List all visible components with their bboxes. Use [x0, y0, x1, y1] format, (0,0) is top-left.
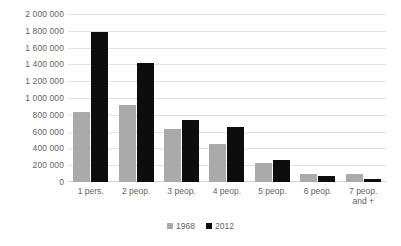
bar-group: [295, 14, 340, 182]
legend-item-2012[interactable]: 2012: [206, 222, 234, 231]
bar-1968: [300, 174, 317, 182]
bar-group: [341, 14, 386, 182]
bar-2012: [318, 176, 335, 182]
y-axis-tick-label: 0: [59, 178, 64, 187]
bar-2012: [273, 160, 290, 182]
plot-area: [68, 14, 386, 182]
bar-2012: [227, 127, 244, 182]
y-axis-tick-label: 1 200 000: [25, 77, 64, 86]
legend-swatch-icon: [167, 223, 173, 229]
bar-group: [204, 14, 249, 182]
x-axis-tick-label: 1 pers.: [68, 186, 113, 206]
x-axis-labels: 1 pers.2 peop.3 peop.4 peop.5 peop.6 peo…: [68, 186, 386, 206]
bar-1968: [255, 163, 272, 182]
y-axis-tick-label: 1 000 000: [25, 94, 64, 103]
y-axis-tick-label: 200 000: [33, 161, 64, 170]
bar-1968: [119, 105, 136, 182]
x-axis-tick-label: 6 peop.: [295, 186, 340, 206]
x-axis-tick-label: 3 peop.: [159, 186, 204, 206]
bar-group: [113, 14, 158, 182]
bar-groups: [68, 14, 386, 182]
y-axis-tick-label: 1 800 000: [25, 27, 64, 36]
bar-group: [250, 14, 295, 182]
bar-2012: [364, 179, 381, 182]
chart-legend: 19682012: [0, 222, 401, 231]
bar-1968: [209, 144, 226, 182]
bar-2012: [182, 120, 199, 182]
y-axis-tick-label: 600 000: [33, 127, 64, 136]
x-axis-tick-label: 5 peop.: [250, 186, 295, 206]
y-axis-tick-label: 400 000: [33, 144, 64, 153]
bar-1968: [73, 112, 90, 182]
y-axis-tick-label: 1 600 000: [25, 43, 64, 52]
x-axis-tick-label: 2 peop.: [113, 186, 158, 206]
bar-2012: [137, 63, 154, 182]
legend-label: 2012: [215, 222, 234, 231]
legend-label: 1968: [176, 222, 195, 231]
bar-1968: [346, 174, 363, 182]
y-axis-tick-label: 800 000: [33, 111, 64, 120]
bar-group: [68, 14, 113, 182]
legend-swatch-icon: [206, 223, 212, 229]
x-axis-tick-label: 4 peop.: [204, 186, 249, 206]
bar-group: [159, 14, 204, 182]
legend-item-1968[interactable]: 1968: [167, 222, 195, 231]
bar-chart: 2 000 0001 800 0001 600 0001 400 0001 20…: [0, 0, 401, 246]
y-axis-tick-label: 1 400 000: [25, 60, 64, 69]
y-axis-tick-label: 2 000 000: [25, 10, 64, 19]
bar-1968: [164, 129, 181, 182]
bar-2012: [91, 32, 108, 182]
y-axis-labels: 2 000 0001 800 0001 600 0001 400 0001 20…: [0, 14, 64, 182]
x-axis-tick-label: 7 peop. and +: [341, 186, 386, 206]
